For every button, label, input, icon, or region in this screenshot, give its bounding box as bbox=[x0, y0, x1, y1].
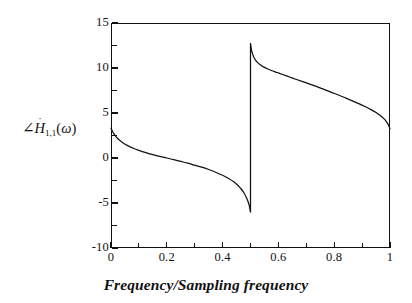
x-tick-mark bbox=[306, 243, 307, 248]
y-tick-mark bbox=[112, 157, 118, 158]
y-tick-mark bbox=[112, 225, 117, 226]
y-axis-variable: ˙H bbox=[35, 120, 45, 136]
x-tick-mark bbox=[334, 242, 335, 248]
y-axis-close-paren: ) bbox=[71, 120, 76, 136]
x-tick-label: 0.2 bbox=[147, 250, 187, 265]
x-tick-mark bbox=[166, 242, 167, 248]
y-tick-label: 0 bbox=[69, 150, 109, 165]
y-tick-label: -10 bbox=[69, 240, 109, 255]
curve-phase_branch_left bbox=[111, 128, 251, 212]
angle-icon: ∠ bbox=[22, 120, 35, 136]
x-tick-label: 1 bbox=[370, 250, 410, 265]
x-tick-mark bbox=[362, 243, 363, 248]
y-tick-mark bbox=[112, 247, 118, 248]
y-tick-label: -5 bbox=[69, 195, 109, 210]
y-tick-mark bbox=[112, 22, 118, 23]
x-tick-mark bbox=[222, 242, 223, 248]
x-tick-label: 0.8 bbox=[314, 250, 354, 265]
y-tick-mark bbox=[112, 202, 118, 203]
x-tick-label: 0.4 bbox=[203, 250, 243, 265]
y-axis-subscript: 1,1 bbox=[45, 128, 56, 138]
y-axis-title: ∠˙H1,1(ω) bbox=[22, 119, 76, 138]
x-tick-mark bbox=[194, 243, 195, 248]
y-axis-omega: ω bbox=[61, 120, 71, 136]
y-tick-mark bbox=[112, 45, 117, 46]
x-tick-mark bbox=[389, 242, 390, 248]
x-tick-mark bbox=[278, 242, 279, 248]
figure-container: ∠˙H1,1(ω) Frequency/Sampling frequency 0… bbox=[0, 0, 412, 303]
y-tick-mark bbox=[112, 67, 118, 68]
y-tick-label: 10 bbox=[69, 60, 109, 75]
x-tick-mark bbox=[138, 243, 139, 248]
dot-accent-icon: ˙ bbox=[38, 117, 41, 127]
phase-response-curve bbox=[111, 23, 390, 248]
y-tick-mark bbox=[112, 135, 117, 136]
y-tick-mark bbox=[112, 180, 117, 181]
y-tick-mark bbox=[112, 90, 117, 91]
x-tick-mark bbox=[250, 243, 251, 248]
x-tick-label: 0.6 bbox=[258, 250, 298, 265]
x-axis-title: Frequency/Sampling frequency bbox=[0, 276, 412, 294]
curve-phase_branch_right bbox=[251, 44, 391, 129]
y-tick-label: 5 bbox=[69, 105, 109, 120]
y-tick-mark bbox=[112, 112, 118, 113]
y-tick-label: 15 bbox=[69, 15, 109, 30]
